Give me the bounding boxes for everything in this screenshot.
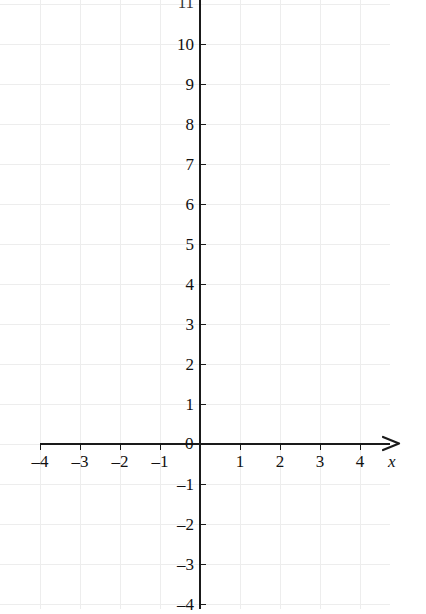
y-axis-tick [199,364,206,365]
x-axis-tick [280,443,281,450]
origin-label: 0 [185,435,194,452]
y-axis-tick-label: 9 [186,76,195,93]
y-axis-tick [199,484,206,485]
x-axis-tick-label: –2 [112,453,129,470]
x-axis-tick [40,443,41,450]
y-axis-tick [199,124,206,125]
y-axis-tick [199,164,206,165]
y-axis-tick-label: –2 [177,516,194,533]
x-axis-line [40,443,390,445]
y-axis-tick [199,324,206,325]
x-axis-tick-label: –3 [72,453,89,470]
y-axis-tick-label: –1 [177,476,194,493]
y-axis-tick [199,604,206,605]
y-axis-tick-label: 5 [186,236,195,253]
x-axis-tick-label: –4 [32,453,49,470]
y-axis-tick [199,204,206,205]
x-axis-tick-label: –1 [152,453,169,470]
x-axis-tick-label: 2 [276,453,285,470]
x-axis-tick-label: 1 [236,453,245,470]
x-axis-tick-label: 4 [356,453,365,470]
x-axis-tick [120,443,121,450]
y-axis-tick-label: –3 [177,556,194,573]
x-axis-tick [80,443,81,450]
x-axis-tick [240,443,241,450]
y-axis-tick-label: 7 [186,156,195,173]
y-axis-tick-label: 10 [177,36,194,53]
y-axis-tick-label: 4 [186,276,195,293]
x-axis-tick [360,443,361,450]
y-axis-tick-label: 2 [186,356,195,373]
x-axis-label: x [388,452,396,472]
y-axis-line [199,0,201,609]
y-axis-tick [199,564,206,565]
y-axis-tick-label: 1 [186,396,195,413]
y-axis-tick [199,524,206,525]
y-axis-tick [199,284,206,285]
y-axis-tick [199,404,206,405]
x-axis-tick-label: 3 [316,453,325,470]
y-axis-tick-label: 3 [186,316,195,333]
y-tick-label-11-clipped: 11 [178,0,194,11]
y-axis-tick [199,84,206,85]
x-axis-tick [160,443,161,450]
y-axis-tick-label: 8 [186,116,195,133]
y-axis-tick-label: 6 [186,196,195,213]
y-axis-tick [199,44,206,45]
y-axis-tick-label: –4 [177,596,194,613]
x-axis-tick [320,443,321,450]
y-axis-tick [199,244,206,245]
